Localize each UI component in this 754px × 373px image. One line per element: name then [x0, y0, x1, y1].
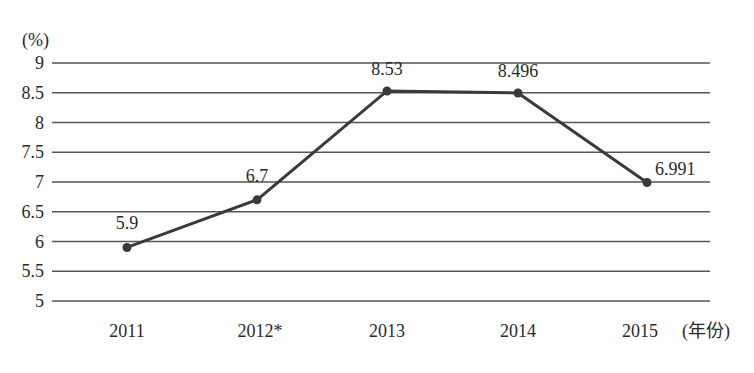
- data-label: 6.991: [655, 159, 696, 179]
- y-tick-label: 7.5: [22, 142, 45, 162]
- gridlines: [52, 63, 710, 301]
- x-tick-label: 2014: [500, 321, 536, 341]
- y-tick-label: 8.5: [22, 83, 45, 103]
- y-axis-label: (%): [22, 30, 49, 51]
- x-tick-label: 2013: [369, 321, 405, 341]
- x-axis-ticks: 20112012*201320142015: [109, 321, 658, 341]
- x-tick-label: 2012*: [238, 321, 283, 341]
- data-point: [383, 86, 392, 95]
- data-labels: 5.96.78.538.4966.991: [116, 59, 696, 233]
- y-tick-label: 6.5: [22, 202, 45, 222]
- data-point: [253, 195, 262, 204]
- y-tick-label: 5: [35, 291, 44, 311]
- x-tick-label: 2011: [109, 321, 144, 341]
- line-chart: 55.566.577.588.59 (%) 20112012*201320142…: [0, 0, 754, 373]
- x-axis-label: (年份): [682, 321, 730, 342]
- data-point: [643, 178, 652, 187]
- y-axis-ticks: 55.566.577.588.59: [22, 53, 45, 311]
- y-tick-label: 8: [35, 113, 44, 133]
- x-tick-label: 2015: [622, 321, 658, 341]
- data-label: 8.496: [498, 61, 539, 81]
- y-tick-label: 9: [35, 53, 44, 73]
- data-label: 6.7: [246, 166, 269, 186]
- y-tick-label: 7: [35, 172, 44, 192]
- data-line: [127, 91, 647, 247]
- y-tick-label: 5.5: [22, 261, 45, 281]
- data-label: 8.53: [371, 59, 403, 79]
- data-label: 5.9: [116, 213, 139, 233]
- data-point: [123, 243, 132, 252]
- data-points: [123, 86, 652, 251]
- data-point: [514, 88, 523, 97]
- y-tick-label: 6: [35, 232, 44, 252]
